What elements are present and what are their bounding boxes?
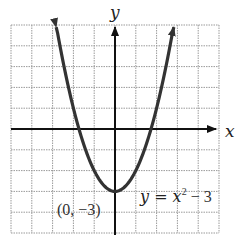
equation-main: y = x xyxy=(139,187,182,206)
parabola-chart: x y (0, −3) y = x2 − 3 xyxy=(0,0,247,248)
equation-label: y = x2 − 3 xyxy=(139,186,212,206)
x-axis-label: x xyxy=(225,121,235,141)
equation-tail: − 3 xyxy=(187,188,212,205)
y-axis-label: y xyxy=(109,2,120,22)
vertex-label: (0, −3) xyxy=(57,201,101,219)
